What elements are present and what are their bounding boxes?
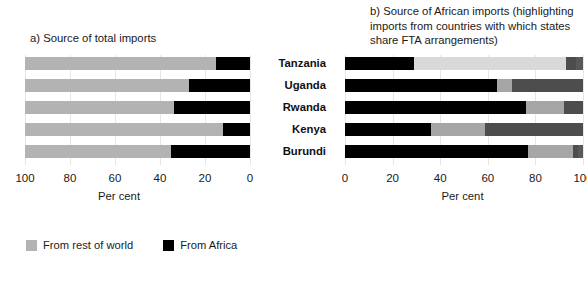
bar-kenya[interactable] [25,123,250,136]
bar-segment-comesa [528,145,573,158]
bar-segment-from-africa [216,57,250,70]
bar-segment-from-africa [174,101,251,114]
panel-b-tick-label: 60 [481,172,494,184]
panel-b-title-line-1: b) Source of African imports (highlighti… [370,5,573,17]
bar-segment-eac [345,101,526,114]
legend-swatch-icon [26,240,37,251]
panel-a-gridline [250,55,251,165]
bar-segment-eac [345,57,414,70]
bar-segment-from-africa [189,79,250,92]
bar-uganda[interactable] [25,79,250,92]
panel-b-tick-label: 20 [386,172,399,184]
bar-segment-comesa [526,101,564,114]
panel-a-tick-label: 60 [109,172,122,184]
panel-a-tick-label: 0 [247,172,253,184]
bar-rwanda[interactable] [345,101,583,114]
panel-a-total-imports: a) Source of total imports 100806040200 … [0,0,294,286]
panel-b-axis-caption: Per cent [316,190,587,202]
bar-segment-from-africa [171,145,250,158]
panel-b-plot-area [345,55,583,165]
bar-tanzania[interactable] [345,57,583,70]
panel-a-tick-label: 80 [64,172,77,184]
bar-segment-from-africa [223,123,250,136]
bar-segment-from-rest-of-world [25,145,171,158]
bar-segment-from-rest-of-world [25,57,216,70]
bar-tanzania[interactable] [25,57,250,70]
bar-uganda[interactable] [345,79,583,92]
panel-b-title-line-3: share FTA arrangements) [370,34,498,46]
panel-a-title: a) Source of total imports [30,31,280,46]
bar-segment-tripartite [566,57,576,70]
panel-a-tick-label: 20 [199,172,212,184]
panel-b-african-imports: b) Source of African imports (highlighti… [294,0,587,286]
panel-b-title: b) Source of African imports (highlighti… [370,4,585,48]
bar-segment-tripartite [485,123,583,136]
bar-burundi[interactable] [25,145,250,158]
panel-a-tick-label: 40 [154,172,167,184]
bar-segment-eac [345,79,497,92]
bar-segment-tripartite [564,101,583,114]
bar-kenya[interactable] [345,123,583,136]
panel-b-gridline [583,55,584,165]
bar-segment-from-rest-of-world [25,79,189,92]
panel-b-tick-label: 100 [573,172,587,184]
bar-segment-comesa [497,79,511,92]
bar-segment-eac [345,145,528,158]
panel-b-title-line-2: imports from countries with which states [370,20,570,32]
bar-segment-rest-of-africa [578,145,583,158]
legend-item-from-rest-of-world[interactable]: From rest of world [26,239,133,251]
bar-segment-sadc [414,57,566,70]
panel-b-tick-label: 0 [342,172,348,184]
panel-a-axis-caption: Per cent [0,190,266,202]
legend-swatch-icon [163,240,174,251]
legend-row: From rest of worldFrom Africa [26,236,276,254]
bar-rwanda[interactable] [25,101,250,114]
bar-segment-from-rest-of-world [25,123,223,136]
bar-segment-eac [345,123,431,136]
legend-label: From rest of world [43,239,133,251]
bar-burundi[interactable] [345,145,583,158]
figure-container: a) Source of total imports 100806040200 … [0,0,587,286]
bar-segment-tripartite [512,79,583,92]
panel-b-tick-label: 40 [434,172,447,184]
bar-segment-comesa [431,123,486,136]
legend-item-from-africa[interactable]: From Africa [163,239,237,251]
panel-a-tick-label: 100 [15,172,34,184]
panel-a-plot-area [25,55,250,165]
bar-segment-rest-of-africa [576,57,583,70]
panel-a-legend: From rest of worldFrom Africa [26,236,276,254]
panel-b-tick-label: 80 [529,172,542,184]
legend-label: From Africa [180,239,237,251]
bar-segment-from-rest-of-world [25,101,174,114]
panel-a-x-axis: 100806040200 [0,172,294,188]
panel-b-x-axis: 020406080100 [294,172,587,188]
